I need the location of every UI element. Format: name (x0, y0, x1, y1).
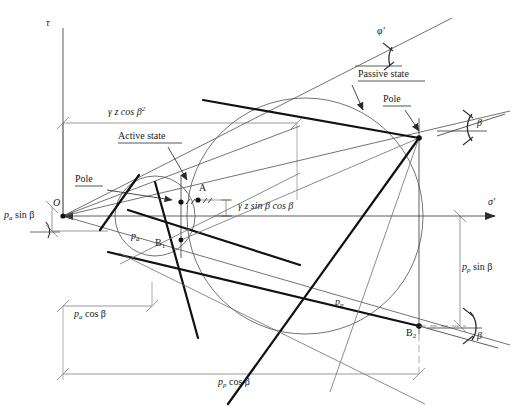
construction-passive-tail (330, 138, 419, 392)
leader-pole-active (107, 190, 172, 200)
pole-active-label: Pole (75, 174, 93, 184)
active-failure-plane (155, 182, 198, 338)
tau-axis-label: τ (46, 18, 50, 28)
construction-lines (119, 138, 425, 404)
beta-br-tick-top (463, 308, 473, 316)
dim-pp-sin-label: pp sin β (462, 262, 492, 274)
beta-br-arc (470, 312, 476, 340)
origin-label: O (53, 198, 60, 208)
dim-pp-cos-label: pp cos β (218, 377, 250, 389)
active-plane-line (100, 175, 139, 230)
beta-left-arc (46, 222, 50, 238)
beta-br-slope-line (419, 326, 498, 348)
pa-line-label: pa (131, 231, 140, 243)
dim-pa-sin-label: pa sin β (4, 210, 34, 222)
beta-tr-slope-line (437, 114, 505, 136)
pp-line-label: pp (335, 297, 344, 309)
point-o-marker (60, 213, 65, 218)
point-a-marker (195, 197, 200, 202)
sigma-axis-label: σ' (488, 197, 495, 207)
point-markers (60, 135, 421, 329)
beta-tr-arc (467, 114, 472, 141)
point-b2-subscript: 2 (413, 332, 417, 340)
dim-top-superscript: 2 (142, 105, 146, 113)
leader-passive-state (352, 85, 363, 110)
point-b2-letter: B (406, 327, 413, 338)
pp-subscript: p (340, 301, 344, 309)
point-b1-letter: B (155, 237, 162, 248)
beta-top-right-label: β (477, 118, 482, 128)
pp-stress-line (108, 252, 419, 326)
pole-passive-marker (416, 135, 422, 141)
dim-middle-label: γ z sin β cos β (238, 201, 293, 211)
point-a-label: A (199, 183, 206, 193)
beta-br-tick-bot (463, 336, 473, 344)
point-b1-marker (179, 238, 184, 243)
stress-path-lines (100, 100, 419, 404)
axes (63, 28, 495, 216)
pole-active-marker (178, 199, 183, 204)
dim-top-label: γ z cos β2 (108, 106, 145, 117)
pa-subscript: a (136, 235, 140, 243)
mohr-circle-figure: τ σ' O Active state Passive state Pole P… (0, 0, 514, 406)
point-b2-label: B2 (406, 328, 416, 340)
phi-envelope-line (63, 18, 452, 216)
point-b1-subscript: 1 (162, 242, 166, 250)
dim-pa-cos-label: pa cos β (74, 309, 106, 321)
beta-bottom-right-label: β (477, 331, 482, 341)
pa-stress-line (128, 210, 300, 265)
failure-envelope (63, 18, 452, 216)
construction-active-tangent (120, 173, 300, 264)
leader-pole-passive (405, 110, 419, 131)
dim-pa-sin-rest: sin β (13, 209, 35, 220)
passive-state-label: Passive state (358, 69, 409, 79)
leader-lines (107, 85, 419, 200)
beta-lines-through-origin (63, 111, 510, 345)
dimension-lines (46, 117, 466, 380)
active-state-label: Active state (118, 131, 165, 141)
dim-top-expression: γ z cos β (108, 106, 142, 117)
point-b1-label: B1 (155, 238, 165, 250)
dim-pa-cos-rest: cos β (83, 308, 106, 319)
pole-passive-label: Pole (383, 94, 401, 104)
construction-long-diagonal (119, 253, 425, 404)
phi-angle-label: φ' (377, 26, 385, 36)
passive-failure-plane (228, 138, 419, 404)
dim-pp-sin-rest: sin β (471, 261, 493, 272)
dim-pp-cos-rest: cos β (227, 376, 250, 387)
